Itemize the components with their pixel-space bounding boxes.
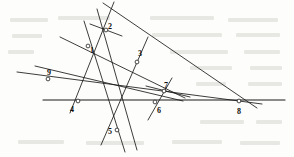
vertex-point-4 — [76, 99, 80, 103]
configuration-line-l3 — [17, 72, 262, 104]
geometric-configuration-figure: 123456789 — [0, 0, 294, 157]
vertex-label-8: 8 — [237, 108, 241, 116]
vertex-label-5: 5 — [108, 128, 112, 136]
configuration-line-l2 — [103, 3, 257, 108]
vertex-point-3 — [135, 60, 139, 64]
configuration-canvas — [0, 0, 294, 157]
vertex-label-3: 3 — [138, 50, 142, 58]
vertex-label-2: 2 — [108, 23, 112, 31]
vertex-label-9: 9 — [47, 69, 51, 77]
vertex-label-6: 6 — [157, 107, 161, 115]
configuration-line-l11 — [146, 86, 190, 97]
vertex-point-5 — [115, 128, 119, 132]
configuration-lines — [17, 2, 285, 152]
vertex-label-4: 4 — [70, 106, 74, 114]
vertex-point-8 — [237, 99, 241, 103]
vertex-point-6 — [153, 100, 157, 104]
configuration-line-l8 — [35, 66, 183, 101]
vertex-label-1: 1 — [90, 47, 94, 55]
vertex-point-9 — [46, 77, 50, 81]
vertex-label-7: 7 — [164, 82, 168, 90]
